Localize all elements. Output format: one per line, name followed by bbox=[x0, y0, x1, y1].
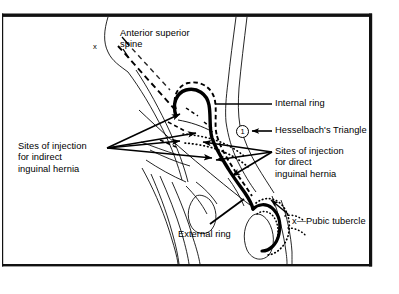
body-contour-lines bbox=[105, 17, 292, 264]
direct-injection-arrows[interactable] bbox=[203, 142, 272, 176]
label-anterior-superior-spine: Anterior superior spine bbox=[120, 28, 190, 51]
region-number-badge: 1 bbox=[236, 125, 249, 138]
label-pubic-tubercle: x—Pubic tubercle bbox=[292, 216, 366, 227]
asis-x-marker: x bbox=[93, 42, 97, 51]
label-external-ring: External ring bbox=[178, 229, 231, 240]
figure-container: Anterior superior spine x Internal ring … bbox=[0, 0, 399, 294]
label-sites-indirect-inguinal-hernia: Sites of injection for indirect inguinal… bbox=[18, 141, 87, 175]
label-sites-direct-inguinal-hernia: Sites of injection for direct inguinal h… bbox=[275, 146, 344, 180]
indirect-injection-arrows[interactable] bbox=[107, 114, 212, 158]
label-internal-ring: Internal ring bbox=[275, 98, 325, 109]
label-hesselbachs-triangle: Hesselbach's Triangle bbox=[275, 125, 367, 136]
